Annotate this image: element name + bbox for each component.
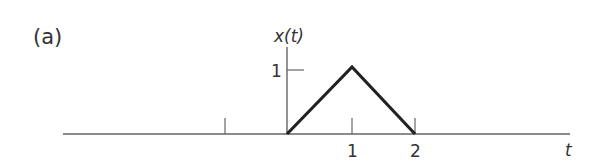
signal-plot: (a) 1 1 2 x(t) t	[0, 0, 597, 167]
panel-label: (a)	[33, 25, 62, 49]
x-tick-label-2: 2	[410, 141, 421, 161]
signal-triangle	[287, 67, 415, 134]
y-axis-label: x(t)	[273, 26, 304, 46]
x-axis-label: t	[565, 140, 573, 160]
x-tick-label-1: 1	[347, 141, 358, 161]
y-tick-label-1: 1	[271, 61, 282, 81]
